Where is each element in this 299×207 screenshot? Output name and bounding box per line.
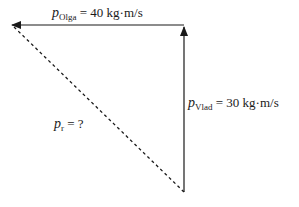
p-vlad-value: = 30 kg·m/s bbox=[216, 95, 279, 110]
p-olga-label: pOlga = 40 kg·m/s bbox=[52, 6, 143, 22]
p-resultant-dashed-line bbox=[14, 27, 184, 192]
p-vlad-label: pVlad = 30 kg·m/s bbox=[188, 96, 279, 112]
p-olga-symbol: p bbox=[52, 5, 59, 20]
p-olga-value: = 40 kg·m/s bbox=[80, 5, 143, 20]
p-resultant-subscript: r bbox=[61, 123, 64, 133]
p-vlad-symbol: p bbox=[188, 95, 195, 110]
p-vlad-subscript: Vlad bbox=[195, 102, 213, 112]
p-resultant-symbol: p bbox=[54, 116, 61, 131]
p-resultant-value: = ? bbox=[67, 116, 83, 131]
p-olga-subscript: Olga bbox=[59, 12, 77, 22]
p-resultant-label: pr = ? bbox=[54, 117, 84, 133]
